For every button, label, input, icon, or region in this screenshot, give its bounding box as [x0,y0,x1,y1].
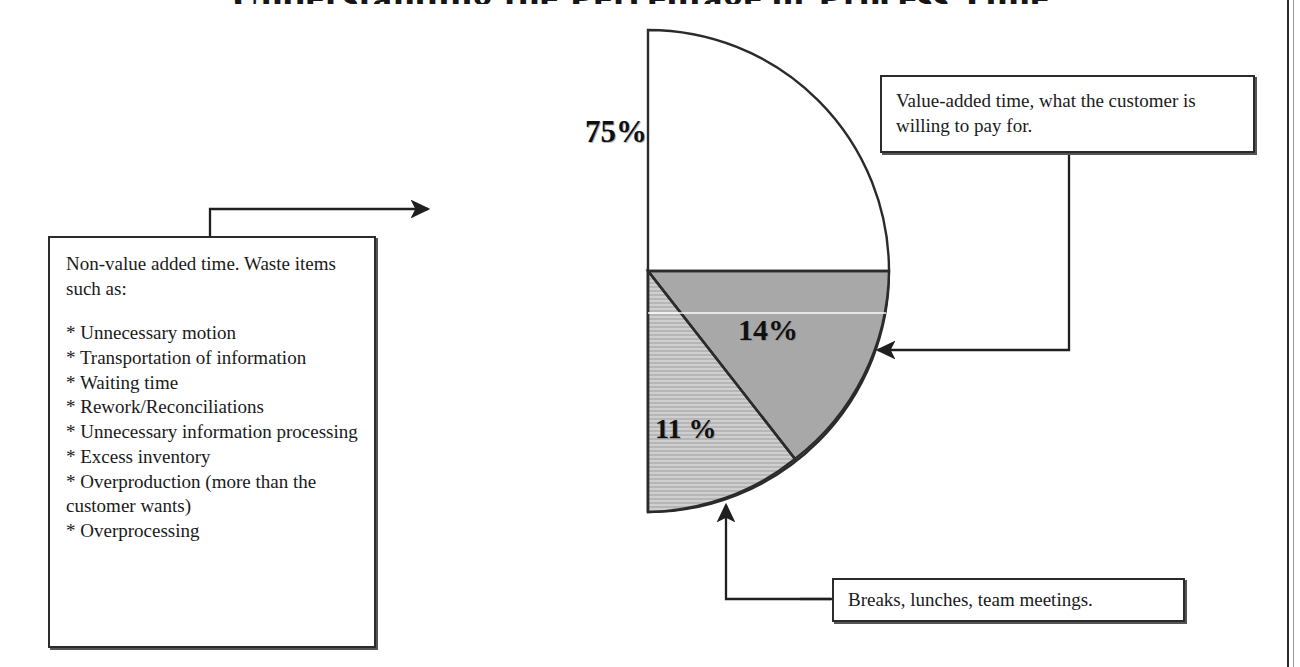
callout-non-value-added-time[interactable]: Non-value added time. Waste items such a… [48,236,376,648]
diagram-canvas: Understanding the Percentage of Process … [0,0,1300,667]
list-item: * Transportation of information [66,346,360,371]
callout-value-added-time[interactable]: Value-added time, what the customer is w… [880,75,1255,153]
list-item: * Excess inventory [66,445,360,470]
connector-waste-to-pie [210,209,428,237]
list-item: * Waiting time [66,371,360,396]
callout-waste-lead: Non-value added time. Waste items such a… [66,252,360,301]
list-item: * Overprocessing [66,519,360,544]
connector-value-to-pie [878,154,1069,350]
connector-breaks-to-pie [726,505,831,599]
callout-breaks-text: Breaks, lunches, team meetings. [834,580,1183,621]
callout-value-text: Value-added time, what the customer is w… [882,77,1253,150]
list-item: * Unnecessary information processing [66,420,360,445]
list-item: * Overproduction (more than the customer… [66,470,360,519]
callout-waste-list: * Unnecessary motion * Transportation of… [66,321,360,543]
list-item: * Rework/Reconciliations [66,395,360,420]
list-item: * Unnecessary motion [66,321,360,346]
callout-breaks-lunches-meetings[interactable]: Breaks, lunches, team meetings. [832,578,1185,622]
